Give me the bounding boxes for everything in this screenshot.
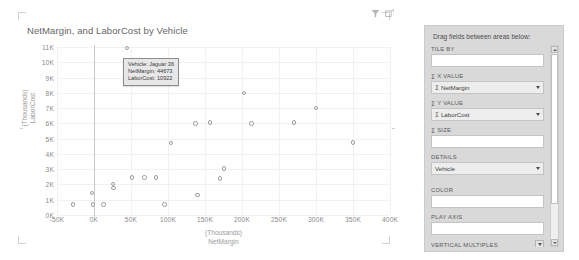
scroll-down-button[interactable] [551,239,558,246]
well-tile-by[interactable]: TILE BY [431,45,544,67]
vertical-multiples-expand-button[interactable] [535,240,544,247]
gridline-vertical [205,47,206,215]
data-point[interactable] [130,175,134,179]
y-axis-label: LaborCost [29,93,36,123]
gridline-horizontal [57,47,390,48]
well-dropzone-color[interactable] [431,195,544,208]
tooltip-line-laborcost: LaborCost: 10922 [128,75,174,82]
x-tick: 100K [160,216,176,223]
chevron-down-icon [538,243,542,246]
data-point[interactable] [222,166,226,170]
well-label-text: PLAY AXIS [431,214,463,220]
gridline-horizontal [57,184,390,185]
gridline-horizontal [57,93,390,94]
gridline-horizontal [57,62,390,63]
well-label-color: COLOR [431,186,544,194]
data-point[interactable] [193,121,197,125]
well-field-details[interactable]: Vehicle [431,162,544,175]
chart-title: NetMargin, and LaborCost by Vehicle [27,25,188,36]
x-axis-tick-labels: -50K 0K 50K 100K 150K 200K 250K 300K 350… [57,216,390,228]
filter-icon[interactable] [371,9,380,18]
field-wells-list[interactable]: TILE BY Σ X VALUE Σ NetMargin [431,45,544,247]
x-tick: 350K [345,216,361,223]
y-axis-title: (Thousands) LaborCost [21,78,37,138]
well-field-x-value[interactable]: Σ NetMargin [431,81,544,94]
chevron-down-icon[interactable] [536,113,540,116]
well-details[interactable]: DETAILS Vehicle [431,153,544,175]
data-point[interactable] [71,202,75,206]
data-point[interactable] [142,175,146,179]
sigma-icon: Σ [431,127,435,134]
y-tick: 5K [46,135,54,142]
well-label-text: TILE BY [431,46,455,52]
data-point[interactable] [91,202,95,206]
field-wells-panel[interactable]: Drag fields between areas below: TILE BY… [424,25,564,252]
well-color[interactable]: COLOR [431,186,544,208]
axis-edge-mark-left [20,128,23,129]
well-y-value[interactable]: Σ Y VALUE Σ LaborCost [431,99,544,121]
y-tick: 3K [46,166,54,173]
tooltip-line-netmargin: NetMargin: 44673 [128,68,174,75]
scrollbar-thumb[interactable] [551,54,558,204]
y-tick: 9K [46,74,54,81]
y-tick: 11K [42,44,54,51]
data-point-tooltip: Vehicle: Jaguar 36 NetMargin: 44673 Labo… [123,58,179,86]
field-pill-vehicle[interactable]: Vehicle [435,165,455,172]
well-dropzone-size[interactable] [431,135,544,148]
field-pill-netmargin[interactable]: Σ NetMargin [435,84,469,91]
well-label-text: Y VALUE [437,100,463,106]
chevron-down-icon [553,242,557,244]
well-label-size: Σ SIZE [431,126,544,134]
field-wells-scrollbar[interactable] [550,45,559,247]
plot-area[interactable] [57,47,390,215]
x-axis-unit: (Thousands) [57,228,390,237]
well-vertical-multiples[interactable]: VERTICAL MULTIPLES [431,240,544,247]
x-tick: 150K [197,216,213,223]
well-label-vertical-multiples: VERTICAL MULTIPLES [431,241,498,248]
canvas-corner-handle-top-left [18,12,26,20]
y-tick: 8K [46,89,54,96]
y-tick: 1K [46,196,54,203]
chevron-up-icon [553,49,557,51]
scroll-up-button[interactable] [551,46,558,53]
chevron-down-icon[interactable] [536,86,540,89]
well-x-value[interactable]: Σ X VALUE Σ NetMargin [431,72,544,94]
x-tick: -50K [50,216,65,223]
field-pill-label: LaborCost [441,111,470,118]
well-label-x-value: Σ X VALUE [431,72,544,80]
well-dropzone-tile-by[interactable] [431,54,544,67]
y-tick: 10K [42,59,54,66]
data-point[interactable] [162,202,166,206]
field-pill-laborcost[interactable]: Σ LaborCost [435,111,469,118]
x-tick: 300K [308,216,324,223]
well-label-text: SIZE [437,127,451,133]
x-axis-label: NetMargin [208,238,238,245]
focus-mode-icon[interactable] [385,9,394,18]
well-play-axis[interactable]: PLAY AXIS [431,213,544,235]
data-point[interactable] [249,121,253,125]
gridline-horizontal [57,200,390,201]
gridline-horizontal [57,78,390,79]
x-tick: 250K [271,216,287,223]
y-tick: 4K [46,150,54,157]
data-point[interactable] [218,176,222,180]
tooltip-line-vehicle: Vehicle: Jaguar 36 [128,61,174,68]
well-field-y-value[interactable]: Σ LaborCost [431,108,544,121]
sigma-icon: Σ [431,100,435,107]
y-tick: 6K [46,120,54,127]
scatter-chart-visual[interactable]: NetMargin, and LaborCost by Vehicle 0K 1… [0,0,412,260]
plot-background [57,47,390,215]
data-point[interactable] [292,120,296,124]
x-tick: 400K [382,216,398,223]
well-size[interactable]: Σ SIZE [431,126,544,148]
field-pill-label: Vehicle [435,165,455,172]
well-dropzone-play-axis[interactable] [431,222,544,235]
data-point[interactable] [351,140,355,144]
gridline-vertical [316,47,317,215]
chevron-down-icon[interactable] [536,167,540,170]
gridline-horizontal [57,154,390,155]
well-label-play-axis: PLAY AXIS [431,213,544,221]
canvas-corner-handle-bottom-left [18,236,26,244]
data-point[interactable] [101,202,105,206]
y-tick: 7K [46,105,54,112]
